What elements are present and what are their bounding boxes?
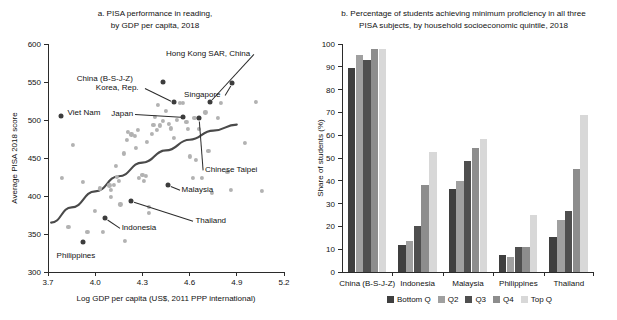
scatter-point-highlight bbox=[58, 114, 63, 119]
y-tick-label: 600 bbox=[28, 40, 41, 49]
x-tick bbox=[189, 272, 190, 276]
bar bbox=[464, 161, 471, 272]
legend-item: Bottom Q bbox=[387, 295, 431, 304]
category-label: China (B-S-J-Z) bbox=[339, 279, 395, 288]
category-separator bbox=[443, 272, 444, 276]
y-tick bbox=[338, 135, 342, 136]
scatter-point-label: Korea, Rep. bbox=[96, 83, 139, 92]
bar bbox=[429, 152, 436, 272]
y-tick bbox=[338, 272, 342, 273]
y-tick-label: 450 bbox=[28, 154, 41, 163]
y-tick-label: 550 bbox=[28, 78, 41, 87]
category-separator bbox=[593, 272, 594, 276]
bar bbox=[573, 169, 580, 273]
x-tick-label: 4.0 bbox=[90, 278, 101, 287]
legend-item: Q4 bbox=[493, 295, 514, 304]
scatter-point-highlight bbox=[165, 182, 170, 187]
bar bbox=[379, 49, 386, 272]
scatter-point-label: Hong Kong SAR, China bbox=[166, 49, 250, 58]
y-tick-label: 350 bbox=[28, 230, 41, 239]
legend-swatch bbox=[438, 296, 445, 303]
y-tick-label: 0 bbox=[331, 268, 335, 277]
scatter-point-label: Thailand bbox=[195, 216, 226, 225]
scatter-point-highlight bbox=[197, 115, 202, 120]
scatter-point-highlight bbox=[160, 80, 165, 85]
y-tick bbox=[338, 249, 342, 250]
scatter-point-highlight bbox=[181, 114, 186, 119]
y-tick-label: 90 bbox=[326, 62, 335, 71]
scatter-point-label: Japan bbox=[111, 109, 133, 118]
y-tick-label: 70 bbox=[326, 108, 335, 117]
scatter-point-label: China (B-S-J-Z) bbox=[77, 74, 133, 83]
legend-label: Top Q bbox=[531, 295, 552, 304]
bar bbox=[421, 185, 428, 272]
legend-item: Top Q bbox=[521, 295, 552, 304]
scatter-plot-area: 3003504004505005506003.74.04.34.64.95.2A… bbox=[48, 44, 284, 272]
legend-swatch bbox=[521, 296, 528, 303]
x-tick bbox=[95, 272, 96, 276]
bar-plot-area: 0102030405060708090100Share of students … bbox=[342, 44, 594, 272]
panel-b-title: b. Percentage of students achieving mini… bbox=[310, 8, 617, 31]
x-tick bbox=[142, 272, 143, 276]
y-tick bbox=[338, 180, 342, 181]
bar bbox=[530, 215, 537, 272]
scatter-point-highlight bbox=[171, 99, 176, 104]
y-tick-label: 40 bbox=[326, 176, 335, 185]
x-axis-title: Log GDP per capita (US$, 2011 PPP intern… bbox=[77, 294, 256, 303]
category-label: Thailand bbox=[553, 279, 584, 288]
category-label: Indonesia bbox=[400, 279, 435, 288]
legend-label: Bottom Q bbox=[397, 295, 431, 304]
y-tick-label: 300 bbox=[28, 268, 41, 277]
x-tick-label: 3.7 bbox=[42, 278, 53, 287]
bar bbox=[414, 226, 421, 272]
y-tick bbox=[338, 203, 342, 204]
y-tick bbox=[338, 226, 342, 227]
x-tick-label: 4.3 bbox=[137, 278, 148, 287]
y-tick-label: 10 bbox=[326, 245, 335, 254]
scatter-point-label: Indonesia bbox=[122, 223, 157, 232]
y-tick bbox=[338, 66, 342, 67]
bar bbox=[398, 245, 405, 272]
scatter-point-highlight bbox=[230, 80, 235, 85]
y-tick bbox=[338, 44, 342, 45]
legend-label: Q4 bbox=[503, 295, 514, 304]
legend-item: Q2 bbox=[438, 295, 459, 304]
legend-label: Q2 bbox=[448, 295, 459, 304]
x-tick bbox=[284, 272, 285, 276]
legend-swatch bbox=[493, 296, 500, 303]
scatter-point-label: Viet Nam bbox=[68, 108, 101, 117]
x-tick-label: 4.9 bbox=[231, 278, 242, 287]
category-separator bbox=[392, 272, 393, 276]
panel-a-scatter: a. PISA performance in reading, by GDP p… bbox=[0, 0, 310, 320]
legend-label: Q3 bbox=[475, 295, 486, 304]
category-separator bbox=[544, 272, 545, 276]
bar bbox=[480, 139, 487, 272]
bar bbox=[406, 241, 413, 272]
panel-b-bars: b. Percentage of students achieving mini… bbox=[310, 0, 617, 320]
y-axis-line bbox=[342, 44, 343, 272]
y-tick-label: 80 bbox=[326, 85, 335, 94]
category-label: Philippines bbox=[499, 279, 538, 288]
bar bbox=[456, 181, 463, 272]
x-tick bbox=[236, 272, 237, 276]
x-axis-line bbox=[342, 272, 594, 273]
scatter-point-label: Singapore bbox=[184, 90, 220, 99]
y-axis-title: Average PISA 2018 score bbox=[10, 112, 19, 203]
category-label: Malaysia bbox=[452, 279, 484, 288]
legend-swatch bbox=[465, 296, 472, 303]
category-separator bbox=[493, 272, 494, 276]
legend-item: Q3 bbox=[465, 295, 486, 304]
y-tick-label: 500 bbox=[28, 116, 41, 125]
bar bbox=[449, 189, 456, 272]
x-tick bbox=[48, 272, 49, 276]
y-tick bbox=[338, 112, 342, 113]
scatter-point-highlight bbox=[80, 239, 85, 244]
bar bbox=[515, 247, 522, 272]
bar bbox=[580, 115, 587, 272]
scatter-point-label: Malaysia bbox=[182, 185, 214, 194]
figure-root: a. PISA performance in reading, by GDP p… bbox=[0, 0, 617, 320]
bar bbox=[522, 247, 529, 272]
bar bbox=[499, 255, 506, 272]
y-tick bbox=[338, 89, 342, 90]
bar bbox=[557, 220, 564, 272]
